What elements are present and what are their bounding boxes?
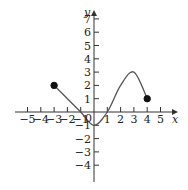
endpoint-dot [51, 82, 57, 88]
y-tick-label: 3 [84, 66, 91, 79]
function-graph: −5−4−3−2−1123457654321−1−2−3−4 x y 0 [0, 0, 188, 190]
y-tick-label: 5 [84, 40, 91, 53]
x-tick-label: 4 [144, 113, 151, 126]
x-tick-label: 3 [130, 113, 137, 126]
y-axis-label: y [83, 6, 91, 19]
y-axis-arrow [91, 10, 97, 16]
tick-labels: −5−4−3−2−1123457654321−1−2−3−4 [19, 13, 164, 172]
y-tick-label: 1 [84, 93, 91, 106]
y-tick-label: 6 [84, 26, 91, 39]
origin-label: 0 [85, 112, 92, 125]
y-tick-label: −2 [75, 133, 91, 146]
endpoint-dots [51, 82, 151, 102]
x-tick-label: 5 [157, 113, 164, 126]
x-axis-label: x [172, 113, 179, 126]
x-tick-label: 2 [117, 113, 124, 126]
y-tick-label: 2 [84, 79, 91, 92]
y-tick-label: −4 [75, 159, 91, 172]
endpoint-dot [144, 96, 150, 102]
y-tick-label: 4 [84, 53, 91, 66]
axes [15, 10, 178, 182]
y-tick-label: −3 [75, 146, 91, 159]
